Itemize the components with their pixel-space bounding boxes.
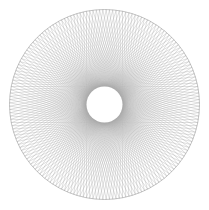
inner-envelope-hole (87, 87, 123, 123)
figure-canvas: Circle chord envelope rosette A circular… (0, 0, 209, 210)
